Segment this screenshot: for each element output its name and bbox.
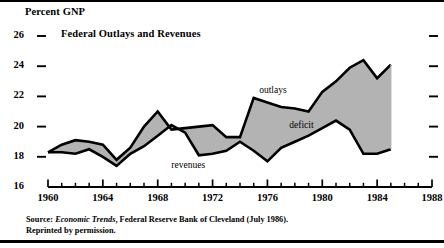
source-publication: Economic Trends xyxy=(55,215,115,224)
figure-container: Percent GNP Federal Outlays and Revenues… xyxy=(0,0,444,248)
y-axis-tick-label: 20 xyxy=(2,120,24,131)
source-prefix: Source: xyxy=(26,215,55,224)
y-axis-tick-label: 24 xyxy=(2,59,24,70)
source-line-1: Source: Economic Trends, Federal Reserve… xyxy=(26,215,288,224)
deficit-area-fill xyxy=(48,60,391,166)
x-axis-tick-label: 1980 xyxy=(302,192,342,203)
series-annotation-deficit: deficit xyxy=(289,120,313,130)
y-axis-tick-label: 16 xyxy=(2,180,24,191)
series-annotation-revenues: revenues xyxy=(171,160,205,170)
source-suffix: , Federal Reserve Bank of Cleveland (Jul… xyxy=(115,215,288,224)
chart-plot xyxy=(0,0,444,248)
x-axis-tick-label: 1960 xyxy=(28,192,68,203)
x-axis-tick-label: 1988 xyxy=(412,192,444,203)
y-axis-tick-label: 26 xyxy=(2,29,24,40)
x-axis-tick-label: 1964 xyxy=(83,192,123,203)
x-axis-tick-label: 1972 xyxy=(193,192,233,203)
x-axis-tick-label: 1984 xyxy=(357,192,397,203)
series-annotation-outlays: outlays xyxy=(259,85,286,95)
y-axis-tick-label: 22 xyxy=(2,89,24,100)
x-axis-tick-label: 1976 xyxy=(247,192,287,203)
x-axis-tick-label: 1968 xyxy=(138,192,178,203)
source-line-2: Reprinted by permission. xyxy=(26,226,116,235)
y-axis-tick-label: 18 xyxy=(2,150,24,161)
